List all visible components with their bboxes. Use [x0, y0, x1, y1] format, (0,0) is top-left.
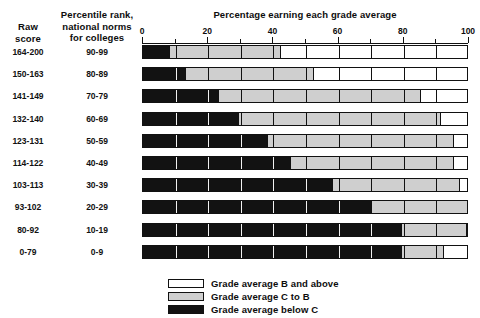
bar-segment-b-above	[280, 46, 468, 58]
bar-segment-divider	[332, 179, 333, 191]
x-axis-minor-tick	[175, 39, 176, 43]
bar-internal-grid-tick	[176, 246, 177, 258]
row-label-percentile-rank: 10-19	[58, 223, 136, 237]
bar-internal-grid-tick	[339, 157, 340, 169]
bar-segment-divider	[401, 224, 402, 236]
stacked-bar-row	[142, 200, 468, 214]
bar-internal-grid-tick	[371, 68, 372, 80]
row-label-raw-score: 164-200	[2, 45, 54, 59]
row-label-percentile-rank: 20-29	[58, 200, 136, 214]
x-axis-major-tick	[142, 37, 143, 43]
bar-segment-divider	[440, 113, 441, 125]
bar-segment-divider	[238, 113, 239, 125]
bar-internal-grid-tick	[208, 246, 209, 258]
bar-segment-divider	[459, 179, 460, 191]
stacked-bar-row	[142, 134, 468, 148]
row-label-percentile-rank: 50-59	[58, 134, 136, 148]
bar-segment-divider	[169, 46, 170, 58]
bar-internal-grid-tick	[339, 46, 340, 58]
bar-internal-grid-tick	[273, 224, 274, 236]
x-axis-minor-tick	[370, 39, 371, 43]
bar-segment-b-above	[453, 135, 468, 147]
bar-internal-grid-tick	[404, 113, 405, 125]
bar-internal-grid-tick	[436, 201, 437, 213]
bar-segment-below-c	[143, 90, 218, 102]
column-header-percentile-line2: national norms	[54, 21, 140, 33]
bar-segment-divider	[313, 68, 314, 80]
bar-internal-grid-tick	[306, 113, 307, 125]
row-label-percentile-rank: 0-9	[58, 245, 136, 259]
bar-internal-grid-tick	[241, 68, 242, 80]
row-label-percentile-rank: 80-89	[58, 67, 136, 81]
bar-segment-divider	[453, 135, 454, 147]
bar-segment-c-to-b	[169, 46, 280, 58]
bar-internal-grid-tick	[208, 201, 209, 213]
bar-internal-grid-tick	[273, 135, 274, 147]
bar-internal-grid-tick	[176, 113, 177, 125]
bar-internal-grid-tick	[273, 68, 274, 80]
stacked-bar-row	[142, 156, 468, 170]
bar-segment-below-c	[143, 201, 371, 213]
bar-internal-grid-tick	[404, 201, 405, 213]
bar-internal-grid-tick	[404, 46, 405, 58]
bar-segment-c-to-b	[267, 135, 453, 147]
bar-segment-divider	[453, 157, 454, 169]
bar-internal-grid-tick	[273, 157, 274, 169]
bar-internal-grid-tick	[436, 113, 437, 125]
bar-segment-divider	[401, 246, 402, 258]
bar-internal-grid-tick	[208, 135, 209, 147]
column-header-percentile-rank: Percentile rank, national norms for coll…	[54, 9, 140, 44]
bar-segment-divider	[443, 246, 444, 258]
bar-segment-b-above	[313, 68, 468, 80]
row-label-percentile-rank: 40-49	[58, 156, 136, 170]
legend-item: Grade average B and above	[168, 277, 468, 290]
bar-segment-b-above	[443, 246, 468, 258]
bar-internal-grid-tick	[208, 90, 209, 102]
bar-internal-grid-tick	[208, 113, 209, 125]
row-label-raw-score: 80-92	[2, 223, 54, 237]
x-axis-major-tick	[403, 37, 404, 43]
x-axis-tick-label: 20	[202, 26, 211, 36]
x-axis-tick-label: 80	[398, 26, 407, 36]
bar-internal-grid-tick	[176, 135, 177, 147]
bar-segment-c-to-b	[401, 224, 466, 236]
row-label-percentile-rank: 60-69	[58, 112, 136, 126]
row-label-percentile-rank: 30-39	[58, 178, 136, 192]
bar-segment-b-above	[453, 157, 468, 169]
bar-internal-grid-tick	[436, 224, 437, 236]
bar-segment-below-c	[143, 179, 332, 191]
bar-segment-b-above	[420, 90, 468, 102]
bar-internal-grid-tick	[241, 46, 242, 58]
bar-internal-grid-tick	[404, 179, 405, 191]
bar-segment-divider	[185, 68, 186, 80]
bar-internal-grid-tick	[371, 246, 372, 258]
bar-segment-b-above	[459, 179, 468, 191]
bar-segment-divider	[420, 90, 421, 102]
x-axis-major-tick	[207, 37, 208, 43]
bar-internal-grid-tick	[273, 90, 274, 102]
bar-internal-grid-tick	[306, 135, 307, 147]
bar-internal-grid-tick	[241, 157, 242, 169]
stacked-bar-row	[142, 89, 468, 103]
legend-label: Grade average below C	[211, 304, 318, 315]
row-label-raw-score: 103-113	[2, 178, 54, 192]
bar-internal-grid-tick	[306, 157, 307, 169]
bar-internal-grid-tick	[404, 90, 405, 102]
bar-segment-c-to-b	[332, 179, 459, 191]
row-label-percentile-rank: 90-99	[58, 45, 136, 59]
bar-internal-grid-tick	[176, 157, 177, 169]
bar-segment-divider	[218, 90, 219, 102]
bar-segment-below-c	[143, 224, 401, 236]
bar-internal-grid-tick	[306, 179, 307, 191]
column-header-percentile-line3: for colleges	[54, 32, 140, 44]
bar-internal-grid-tick	[404, 224, 405, 236]
bar-internal-grid-tick	[339, 135, 340, 147]
column-header-raw-score-line1: Raw	[2, 21, 54, 33]
stacked-bar-row	[142, 223, 468, 237]
bar-internal-grid-tick	[371, 113, 372, 125]
bar-internal-grid-tick	[306, 224, 307, 236]
bar-internal-grid-tick	[339, 201, 340, 213]
chart-title: Percentage earning each grade average	[142, 9, 468, 20]
bar-internal-grid-tick	[404, 68, 405, 80]
bar-internal-grid-tick	[273, 46, 274, 58]
